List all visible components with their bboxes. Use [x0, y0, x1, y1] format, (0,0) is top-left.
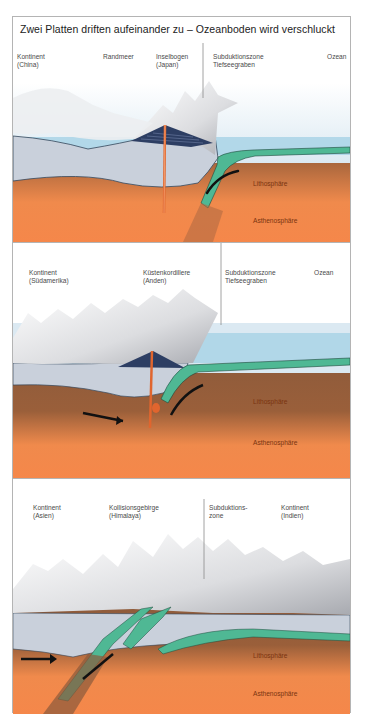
- label-continent-india: Kontinent(Indien): [281, 504, 309, 521]
- panel-coastal-range: Kontinent(Südamerika) Küstenkordillere(A…: [13, 242, 350, 479]
- island-arc-cross-section: [13, 43, 350, 242]
- label-continent-asia: Kontinent(Asien): [33, 504, 61, 521]
- label-collision-range: Kollisionsgebirge(Himalaya): [109, 504, 159, 521]
- label-asthenosphere: Asthenosphäre: [253, 690, 297, 697]
- label-subduction-zone: SubduktionszoneTiefseegraben: [213, 53, 264, 70]
- label-ocean: Ozean: [314, 269, 333, 277]
- label-coastal-range: Küstenkordillere(Anden): [143, 269, 190, 286]
- label-ocean: Ozean: [327, 53, 346, 61]
- figure-title: Zwei Platten driften aufeinander zu – Oz…: [20, 23, 335, 35]
- figure-frame: Zwei Platten driften aufeinander zu – Oz…: [12, 16, 351, 713]
- panel-island-arc: Kontinent(China) Randmeer Inselbogen(Jap…: [13, 43, 350, 242]
- label-lithosphere: Lithosphäre: [253, 180, 287, 187]
- label-asthenosphere: Asthenosphäre: [253, 439, 297, 446]
- panel-collision: Kontinent(Asien) Kollisionsgebirge(Himal…: [13, 478, 350, 714]
- label-lithosphere: Lithosphäre: [253, 652, 287, 659]
- label-continent: Kontinent(Südamerika): [29, 269, 69, 286]
- label-subduction-zone: SubduktionszoneTiefseegraben: [225, 269, 276, 286]
- label-asthenosphere: Asthenosphäre: [253, 217, 297, 224]
- label-island-arc: Inselbogen(Japan): [156, 53, 188, 70]
- ocean-water: [193, 333, 350, 363]
- label-subduction-zone: Subduktions-zone: [209, 504, 248, 521]
- label-lithosphere: Lithosphäre: [253, 398, 287, 405]
- label-marginal-sea: Randmeer: [103, 53, 134, 61]
- label-continent: Kontinent(China): [17, 53, 45, 70]
